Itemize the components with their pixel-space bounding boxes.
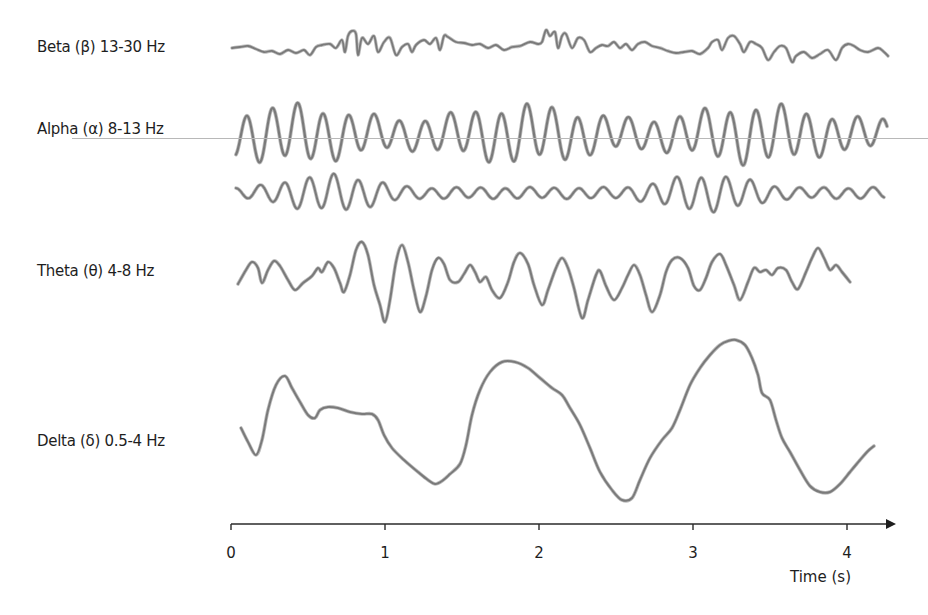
horizontal-guide-line — [72, 138, 928, 139]
delta-wave — [241, 340, 874, 501]
tick-label-4: 4 — [842, 544, 852, 562]
tick-label-2: 2 — [534, 544, 544, 562]
label-beta: Beta (β) 13-30 Hz — [37, 38, 165, 56]
theta-wave — [238, 242, 850, 322]
theta-wave-halo — [238, 242, 850, 322]
axis-title: Time (s) — [790, 568, 851, 586]
time-axis — [231, 519, 896, 530]
alpha-wave-2 — [236, 174, 884, 212]
tick-label-0: 0 — [226, 544, 236, 562]
tick-label-1: 1 — [380, 544, 390, 562]
label-theta: Theta (θ) 4-8 Hz — [37, 262, 154, 280]
tick-label-3: 3 — [688, 544, 698, 562]
delta-wave-halo — [241, 340, 874, 501]
wave-traces — [232, 30, 888, 501]
axis-arrow-icon — [886, 519, 896, 529]
label-alpha: Alpha (α) 8-13 Hz — [37, 120, 164, 138]
label-delta: Delta (δ) 0.5-4 Hz — [37, 432, 165, 450]
eeg-waves-chart — [0, 0, 928, 615]
